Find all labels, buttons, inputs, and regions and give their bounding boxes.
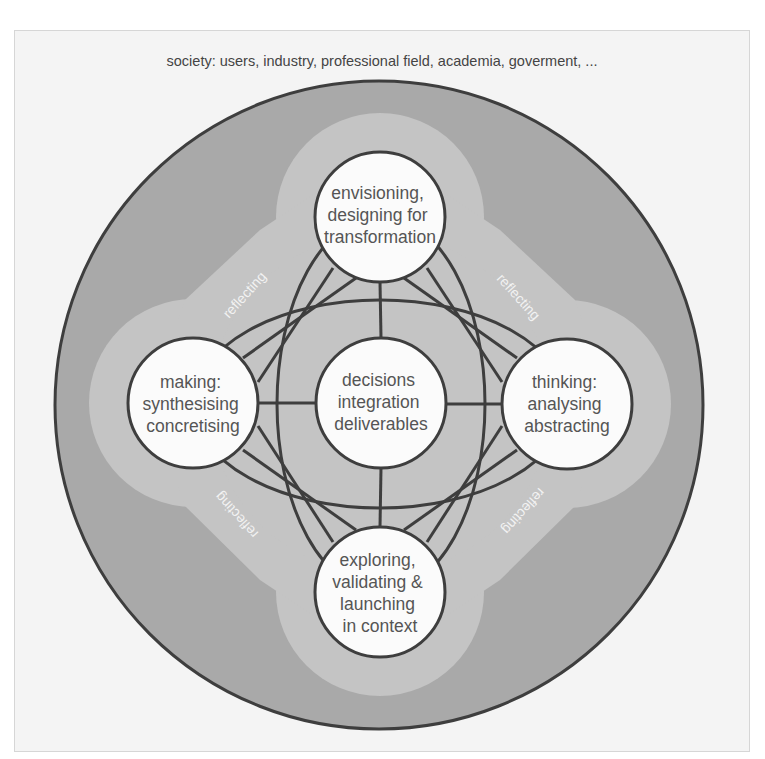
svg-text:thinking: analysing: thinking: analysing abstracting: [524, 372, 610, 436]
node-right-line-2: analysing: [528, 394, 602, 414]
node-top: envisioning, designing for transformatio…: [315, 152, 445, 282]
node-right-line-1: thinking:: [532, 372, 597, 392]
node-right: thinking: analysing abstracting: [502, 339, 632, 469]
node-center-line-3: deliverables: [334, 414, 428, 434]
svg-text:envisioning, designing f: envisioning, designing for transformatio…: [324, 183, 436, 247]
node-center: decisions integration deliverables: [316, 338, 446, 468]
society-caption: society: users, industry, professional f…: [167, 53, 598, 69]
node-left-line-2: synthesising: [142, 394, 238, 414]
node-bottom-line-3: launching: [340, 594, 415, 614]
node-center-line-2: integration: [338, 392, 420, 412]
node-bottom-line-1: exploring,: [340, 550, 416, 570]
node-center-line-1: decisions: [342, 370, 415, 390]
design-process-diagram: reflecting reflecting reflecting reflect…: [0, 0, 765, 759]
node-bottom-line-4: in context: [343, 616, 418, 636]
node-bottom: exploring, validating & launching in con…: [315, 527, 445, 657]
svg-text:decisions integration: decisions integration deliverables: [334, 370, 428, 434]
node-left: making: synthesising concretising: [128, 338, 258, 468]
node-bottom-line-2: validating &: [332, 572, 423, 592]
node-top-line-2: designing for: [327, 205, 427, 225]
node-left-line-3: concretising: [146, 416, 239, 436]
node-left-line-1: making:: [160, 372, 221, 392]
node-top-line-3: transformation: [324, 227, 436, 247]
node-right-line-3: abstracting: [524, 416, 610, 436]
node-top-line-1: envisioning,: [331, 183, 423, 203]
